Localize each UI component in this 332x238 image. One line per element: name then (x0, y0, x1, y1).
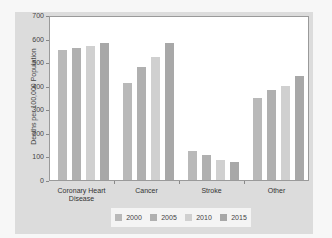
y-tick-mark (46, 134, 49, 135)
legend-item-2015: 2015 (220, 214, 247, 221)
plot-area (49, 16, 309, 181)
bar (216, 160, 225, 180)
x-tick-mark (179, 181, 180, 184)
y-tick-mark (46, 87, 49, 88)
bar (253, 98, 262, 181)
y-tick-mark (46, 181, 49, 182)
y-tick-label: 200 (22, 130, 44, 138)
legend: 2000 2005 2010 2015 (111, 208, 251, 227)
y-tick-label: 300 (22, 106, 44, 114)
bar (267, 90, 276, 180)
y-tick-mark (46, 110, 49, 111)
legend-swatch (220, 214, 227, 221)
y-tick-mark (46, 16, 49, 17)
bar (100, 43, 109, 180)
bar (72, 48, 81, 180)
bar (202, 155, 211, 180)
x-tick-label: Other (242, 187, 312, 195)
y-tick-label: 400 (22, 83, 44, 91)
y-tick-label: 700 (22, 12, 44, 20)
y-tick-mark (46, 40, 49, 41)
bar (188, 151, 197, 180)
legend-swatch (115, 214, 122, 221)
bar (281, 86, 290, 180)
bar (151, 57, 160, 180)
y-tick-label: 600 (22, 36, 44, 44)
legend-label: 2010 (196, 214, 212, 221)
legend-item-2000: 2000 (115, 214, 142, 221)
bar (123, 83, 132, 180)
bar (137, 67, 146, 180)
legend-swatch (185, 214, 192, 221)
y-tick-mark (46, 157, 49, 158)
legend-label: 2005 (161, 214, 177, 221)
y-tick-mark (46, 63, 49, 64)
bar (295, 76, 304, 180)
bar (86, 46, 95, 180)
x-tick-label: Cancer (112, 187, 182, 195)
y-tick-label: 0 (22, 177, 44, 185)
x-tick-label: Stroke (177, 187, 247, 195)
legend-label: 2015 (231, 214, 247, 221)
y-tick-label: 100 (22, 153, 44, 161)
x-tick-mark (114, 181, 115, 184)
legend-swatch (150, 214, 157, 221)
bar (58, 50, 67, 180)
legend-item-2005: 2005 (150, 214, 177, 221)
x-tick-label: Coronary HeartDisease (47, 187, 117, 203)
bar (165, 43, 174, 180)
legend-label: 2000 (126, 214, 142, 221)
y-tick-label: 500 (22, 59, 44, 67)
legend-item-2010: 2010 (185, 214, 212, 221)
bar (230, 162, 239, 180)
x-tick-mark (244, 181, 245, 184)
